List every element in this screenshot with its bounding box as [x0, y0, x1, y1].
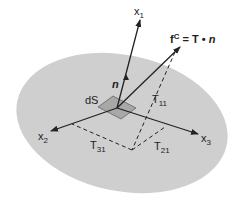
label-t31: T31: [90, 140, 106, 154]
diagram-canvas: [0, 0, 236, 203]
surface-ellipse: [3, 34, 236, 203]
label-t21: T21: [154, 141, 170, 155]
stress-diagram: x1 x2 x3 n dS T11 T21 T31 fC = T • n: [0, 0, 236, 203]
label-t11: T11: [152, 94, 167, 108]
label-normal-n: n: [112, 79, 119, 90]
label-x1: x1: [134, 6, 144, 20]
label-x2: x2: [38, 131, 48, 145]
label-traction-equation: fC = T • n: [170, 33, 215, 45]
label-ds: dS: [85, 95, 98, 106]
label-x3: x3: [201, 133, 211, 147]
